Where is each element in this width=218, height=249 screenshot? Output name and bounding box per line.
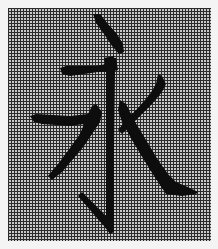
glyph-strokes [30,14,198,234]
stroke-left-turn [30,104,102,180]
stroke-right-falling [118,100,198,196]
character-glyph [0,0,218,249]
stroke-dot [93,14,124,54]
